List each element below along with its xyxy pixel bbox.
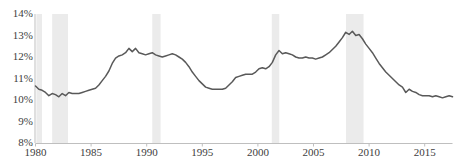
y-axis-tick: 13% (0, 30, 33, 41)
y-axis-tick: 11% (0, 73, 33, 84)
x-axis-tick: 2005 (291, 146, 337, 159)
recession-band (272, 14, 279, 143)
y-axis-tick: 9% (0, 116, 33, 127)
axis-lines-group (35, 14, 453, 147)
recession-bands-group (36, 14, 363, 143)
data-line-group (36, 31, 453, 98)
x-axis-tick-label: 2015 (402, 146, 448, 159)
x-axis-tick: 1980 (13, 146, 59, 159)
recession-band (36, 14, 42, 143)
y-axis-tick-label: 10% (0, 94, 33, 105)
y-axis-tick: 12% (0, 51, 33, 62)
x-axis-tick: 1990 (124, 146, 170, 159)
y-axis-tick-label: 14% (0, 8, 33, 19)
x-axis-tick-label: 2010 (346, 146, 392, 159)
y-axis-tick-label: 9% (0, 116, 33, 127)
x-axis-tick-label: 2005 (291, 146, 337, 159)
x-axis-tick: 2010 (346, 146, 392, 159)
y-axis-tick-label: 11% (0, 73, 33, 84)
y-axis-tick-label: 12% (0, 51, 33, 62)
y-axis-tick: 10% (0, 94, 33, 105)
chart-container: 14%13%12%11%10%9%8% 19801985199019952000… (0, 0, 458, 164)
line-chart-plot (0, 0, 458, 164)
x-axis-tick-label: 1995 (179, 146, 225, 159)
x-axis-tick-label: 1990 (124, 146, 170, 159)
data-series-line (36, 31, 453, 98)
x-axis-tick-label: 2000 (235, 146, 281, 159)
recession-band (152, 14, 160, 143)
x-axis-tick: 2015 (402, 146, 448, 159)
x-axis-tick-label: 1985 (68, 146, 114, 159)
x-axis-tick: 2000 (235, 146, 281, 159)
y-axis-tick-label: 13% (0, 30, 33, 41)
x-axis-tick: 1985 (68, 146, 114, 159)
x-axis-tick: 1995 (179, 146, 225, 159)
x-axis-tick-label: 1980 (13, 146, 59, 159)
y-axis-tick: 14% (0, 8, 33, 19)
recession-band (52, 14, 68, 143)
